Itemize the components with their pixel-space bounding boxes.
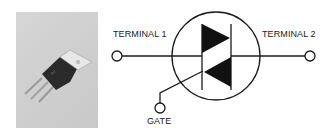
reverse-diode-triangle [204, 57, 231, 87]
terminal2-label: TERMINAL 2 [262, 29, 316, 39]
gate-node-icon [155, 103, 165, 113]
terminal1-node-icon [112, 51, 122, 61]
terminal2-node-icon [305, 51, 315, 61]
gate-label: GATE [147, 116, 171, 126]
forward-diode-triangle [202, 24, 230, 53]
gate-wire [160, 71, 203, 103]
terminal1-label: TERMINAL 1 [113, 29, 167, 39]
